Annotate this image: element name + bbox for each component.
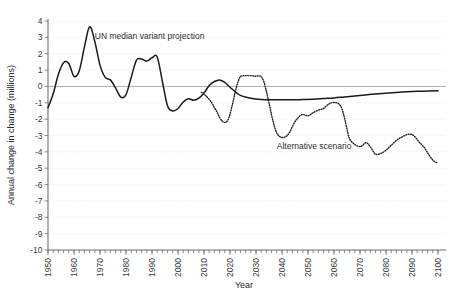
- x-tick-label: 2080: [381, 258, 391, 277]
- y-tick-label: -6: [35, 180, 43, 190]
- y-tick-label: -4: [35, 147, 43, 157]
- series-group: [48, 27, 438, 163]
- x-tick-label: 1950: [43, 258, 53, 277]
- x-tick-label: 2050: [303, 258, 313, 277]
- x-tick-label: 2010: [199, 258, 209, 277]
- y-tick-label: -10: [30, 245, 43, 255]
- x-tick-group: 1950196019701980199020002010202020302040…: [43, 250, 443, 277]
- y-tick-label: 3: [38, 32, 43, 42]
- y-tick-label: -5: [35, 163, 43, 173]
- x-tick-label: 1980: [121, 258, 131, 277]
- y-tick-label: -3: [35, 131, 43, 141]
- y-tick-label: 2: [38, 49, 43, 59]
- x-tick-label: 1990: [147, 258, 157, 277]
- label-un-median: UN median variant projection: [95, 31, 205, 41]
- x-tick-label: 1970: [95, 258, 105, 277]
- y-tick-label: 4: [38, 16, 43, 26]
- x-tick-label: 1960: [69, 258, 79, 277]
- y-tick-label: -2: [35, 114, 43, 124]
- y-tick-label: 0: [38, 81, 43, 91]
- y-tick-group: 43210-1-2-3-4-5-6-7-8-9-10: [30, 16, 48, 255]
- y-axis-title: Annual change in change (millions): [6, 65, 16, 205]
- y-tick-label: -7: [35, 196, 43, 206]
- x-tick-label: 2030: [251, 258, 261, 277]
- y-tick-label: -9: [35, 229, 43, 239]
- x-tick-label: 2000: [173, 258, 183, 277]
- x-tick-label: 2040: [277, 258, 287, 277]
- x-tick-label: 2060: [329, 258, 339, 277]
- series-annotations-group: UN median variant projectionAlternative …: [95, 31, 352, 151]
- x-axis-title: Year: [235, 280, 253, 290]
- label-alternative-scenario: Alternative scenario: [277, 141, 352, 151]
- gridlines-group: [48, 21, 446, 250]
- x-tick-label: 2020: [225, 258, 235, 277]
- x-tick-label: 2090: [407, 258, 417, 277]
- y-tick-label: 1: [38, 65, 43, 75]
- chart-container: 43210-1-2-3-4-5-6-7-8-9-10 1950196019701…: [0, 0, 454, 295]
- y-tick-label: -8: [35, 212, 43, 222]
- x-tick-label: 2100: [433, 258, 443, 277]
- x-tick-label: 2070: [355, 258, 365, 277]
- y-tick-label: -1: [35, 98, 43, 108]
- line-chart: 43210-1-2-3-4-5-6-7-8-9-10 1950196019701…: [0, 0, 454, 295]
